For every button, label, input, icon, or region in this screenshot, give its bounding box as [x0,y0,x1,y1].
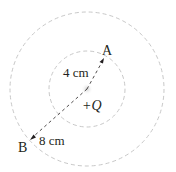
arrowhead-b-icon [30,135,36,141]
point-a-label: A [102,43,113,58]
inner-distance-label: 4 cm [63,65,89,80]
point-b-label: B [18,140,27,155]
outer-distance-label: 8 cm [39,133,65,148]
arrowhead-a-icon [100,58,105,64]
charge-diagram: A 4 cm +Q B 8 cm [0,0,176,172]
charge-label: +Q [82,98,102,113]
radius-line-b [34,89,87,136]
